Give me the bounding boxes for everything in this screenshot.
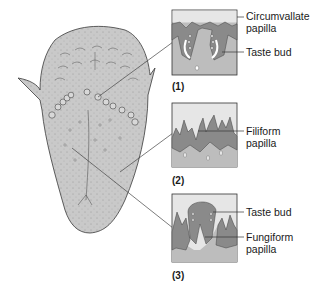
tongue-papillae-diagram: Circumvallate papilla Taste bud (1) Fili… [0, 0, 315, 287]
label-circumvallate-papilla: Circumvallate papilla [246, 10, 310, 34]
inset-number-3: (3) [172, 270, 184, 281]
label-taste-bud-3: Taste bud [246, 206, 292, 218]
inset-number-1: (1) [172, 81, 184, 92]
inset-circumvallate-papilla [172, 10, 244, 75]
tongue [18, 26, 155, 233]
label-fungiform-papilla: Fungiform papilla [246, 231, 293, 255]
label-filiform-papilla: Filiform papilla [246, 125, 280, 149]
inset-fungiform-papilla [172, 194, 244, 262]
label-taste-bud-1: Taste bud [246, 46, 292, 58]
inset-number-2: (2) [172, 175, 184, 186]
inset-filiform-papilla [172, 103, 244, 167]
